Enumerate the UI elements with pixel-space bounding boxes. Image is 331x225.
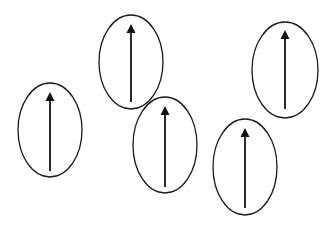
domain-4 <box>213 119 277 215</box>
arrow-up-icon <box>161 106 170 115</box>
domain-1 <box>18 83 82 177</box>
domain-2 <box>99 15 163 109</box>
diagram-canvas <box>0 0 331 225</box>
arrow-up-icon <box>127 24 136 33</box>
aligned-dipole-domains-diagram <box>0 0 331 225</box>
arrow-up-icon <box>241 128 250 137</box>
arrow-up-icon <box>281 30 290 39</box>
domain-3 <box>133 97 197 193</box>
arrow-up-icon <box>46 92 55 101</box>
domain-5 <box>252 22 318 118</box>
